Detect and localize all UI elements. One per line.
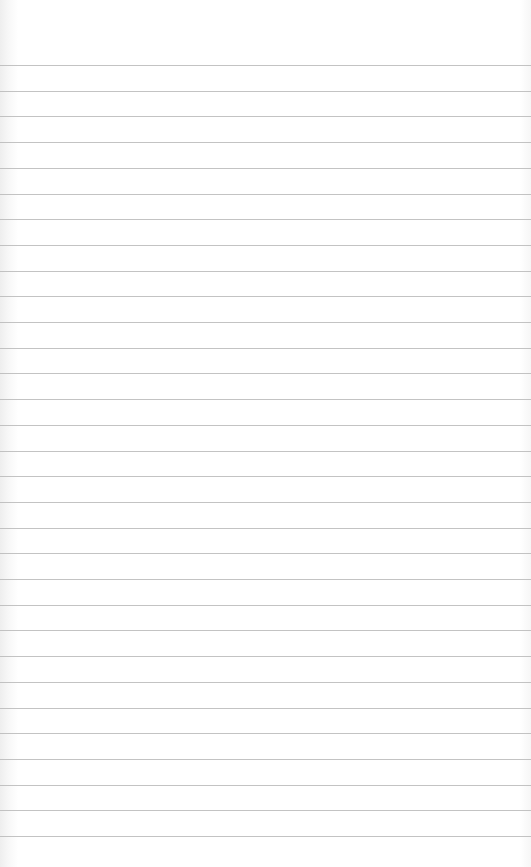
ruled-line bbox=[0, 245, 531, 246]
ruled-line bbox=[0, 451, 531, 452]
ruled-line bbox=[0, 656, 531, 657]
ruled-line bbox=[0, 116, 531, 117]
lined-paper bbox=[0, 0, 531, 867]
ruled-line bbox=[0, 553, 531, 554]
ruled-line bbox=[0, 759, 531, 760]
ruled-line bbox=[0, 348, 531, 349]
ruled-line bbox=[0, 785, 531, 786]
ruled-line bbox=[0, 476, 531, 477]
ruled-line bbox=[0, 373, 531, 374]
ruled-line bbox=[0, 296, 531, 297]
ruled-line bbox=[0, 65, 531, 66]
ruled-line bbox=[0, 733, 531, 734]
ruled-line bbox=[0, 630, 531, 631]
ruled-line bbox=[0, 142, 531, 143]
ruled-line bbox=[0, 168, 531, 169]
ruled-line bbox=[0, 194, 531, 195]
ruled-line bbox=[0, 605, 531, 606]
ruled-line bbox=[0, 682, 531, 683]
ruled-line bbox=[0, 528, 531, 529]
ruled-line bbox=[0, 271, 531, 272]
ruled-line bbox=[0, 502, 531, 503]
ruled-line bbox=[0, 399, 531, 400]
ruled-line bbox=[0, 708, 531, 709]
ruled-line bbox=[0, 219, 531, 220]
ruled-line bbox=[0, 322, 531, 323]
ruled-line bbox=[0, 425, 531, 426]
ruled-line bbox=[0, 579, 531, 580]
ruled-line bbox=[0, 836, 531, 837]
ruled-line bbox=[0, 91, 531, 92]
ruled-line bbox=[0, 810, 531, 811]
